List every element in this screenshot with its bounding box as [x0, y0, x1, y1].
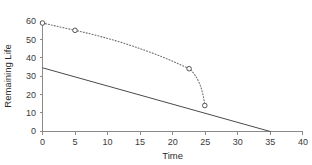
x-tick-label-0: 0: [40, 137, 45, 147]
data-point-marker: [187, 66, 192, 71]
x-tick-label-30: 30: [233, 137, 243, 147]
y-tick-label-10: 10: [26, 108, 36, 118]
x-tick-label-20: 20: [168, 137, 178, 147]
data-point-marker: [73, 28, 78, 33]
x-tick-label-35: 35: [265, 137, 275, 147]
x-axis: 0 5 10 15 20 25 30 35 40 Time: [40, 132, 308, 162]
x-tick-label-40: 40: [298, 137, 308, 147]
series-observed-degradation-curve: [40, 21, 207, 108]
x-axis-tick-labels: 0 5 10 15 20 25 30 35 40: [40, 137, 308, 147]
solid-trend-line: [43, 68, 271, 132]
data-point-marker: [203, 103, 208, 108]
x-tick-label-25: 25: [200, 137, 210, 147]
dotted-degradation-line: [43, 23, 205, 106]
x-axis-title: Time: [162, 150, 183, 161]
y-axis-tick-labels: 0 10 20 30 40 50 60: [26, 16, 36, 136]
series-nominal-life-line: [43, 68, 271, 132]
x-tick-label-5: 5: [72, 137, 77, 147]
y-tick-label-0: 0: [31, 126, 36, 136]
y-tick-label-50: 50: [26, 35, 36, 45]
y-axis-title: Remaining Life: [2, 44, 13, 107]
x-tick-label-15: 15: [135, 137, 145, 147]
y-tick-label-60: 60: [26, 16, 36, 26]
y-tick-label-40: 40: [26, 53, 36, 63]
chart-container: 0 10 20 30 40 50 60 Remaining Life: [0, 0, 312, 165]
data-point-marker: [40, 21, 45, 26]
y-axis: 0 10 20 30 40 50 60 Remaining Life: [2, 16, 43, 136]
y-tick-label-20: 20: [26, 90, 36, 100]
y-tick-label-30: 30: [26, 71, 36, 81]
x-tick-label-10: 10: [103, 137, 113, 147]
line-chart: 0 10 20 30 40 50 60 Remaining Life: [0, 0, 312, 165]
